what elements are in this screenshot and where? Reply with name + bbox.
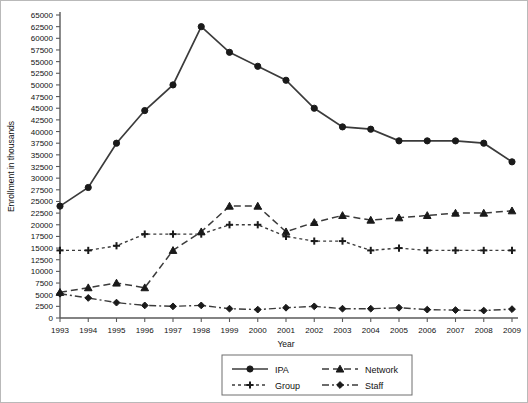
x-tick-label: 1999: [221, 326, 239, 335]
y-tick-label: 22500: [31, 209, 54, 218]
x-tick-label: 1993: [51, 326, 69, 335]
marker-diamond: [509, 306, 516, 313]
marker-circle: [396, 138, 402, 144]
y-tick-label: 7500: [35, 279, 53, 288]
x-tick-label: 2008: [475, 326, 493, 335]
marker-diamond: [339, 305, 346, 312]
y-tick-label: 30000: [31, 174, 54, 183]
y-tick-label: 60000: [31, 34, 54, 43]
marker-circle: [226, 49, 232, 55]
y-tick-label: 5000: [35, 291, 53, 300]
y-tick-label: 32500: [31, 163, 54, 172]
marker-diamond: [113, 299, 120, 306]
marker-diamond: [141, 302, 148, 309]
marker-circle: [424, 138, 430, 144]
x-tick-label: 2006: [418, 326, 436, 335]
marker-triangle: [169, 247, 177, 254]
y-tick-label: 47500: [31, 93, 54, 102]
marker-diamond: [254, 306, 261, 313]
marker-circle: [481, 140, 487, 146]
y-tick-label: 20000: [31, 221, 54, 230]
marker-diamond: [311, 303, 318, 310]
series-network: [56, 202, 516, 295]
marker-triangle: [84, 284, 92, 291]
y-tick-label: 12500: [31, 256, 54, 265]
y-tick-label: 55000: [31, 58, 54, 67]
marker-triangle: [226, 202, 234, 209]
y-tick-label: 15000: [31, 244, 54, 253]
y-tick-label: 57500: [31, 46, 54, 55]
marker-diamond: [198, 302, 205, 309]
series-ipa: [57, 24, 515, 210]
marker-triangle: [339, 212, 347, 219]
marker-circle: [311, 105, 317, 111]
x-tick-label: 2002: [305, 326, 323, 335]
x-tick-label: 2005: [390, 326, 408, 335]
y-tick-label: 45000: [31, 104, 54, 113]
marker-circle: [255, 63, 261, 69]
x-tick-label: 1996: [136, 326, 154, 335]
series-line-network: [60, 206, 512, 292]
marker-circle: [113, 140, 119, 146]
marker-circle: [368, 126, 374, 132]
legend-label: Group: [275, 381, 300, 391]
marker-circle: [198, 24, 204, 30]
series-staff: [57, 290, 516, 314]
marker-diamond: [424, 306, 431, 313]
marker-diamond: [396, 304, 403, 311]
y-tick-label: 37500: [31, 139, 54, 148]
legend-label: Staff: [365, 381, 384, 391]
x-axis-title: Year: [277, 339, 294, 349]
x-tick-label: 1997: [164, 326, 182, 335]
marker-triangle: [113, 279, 121, 286]
x-tick-label: 2004: [362, 326, 380, 335]
page-border: [1, 1, 528, 403]
series-line-ipa: [60, 27, 512, 206]
y-tick-label: 50000: [31, 81, 54, 90]
marker-diamond: [480, 307, 487, 314]
y-tick-label: 0: [49, 314, 54, 323]
marker-circle: [57, 203, 63, 209]
marker-triangle: [254, 202, 262, 209]
marker-circle: [142, 107, 148, 113]
marker-diamond: [170, 303, 177, 310]
marker-circle: [339, 124, 345, 130]
series-group: [56, 221, 515, 254]
chart-canvas: 0250050007500100001250015000175002000022…: [0, 0, 528, 403]
x-tick-label: 1994: [79, 326, 97, 335]
y-tick-label: 42500: [31, 116, 54, 125]
marker-diamond: [367, 305, 374, 312]
enrollment-line-chart: 0250050007500100001250015000175002000022…: [0, 0, 528, 403]
y-tick-label: 2500: [35, 302, 53, 311]
x-tick-label: 1995: [108, 326, 126, 335]
y-tick-label: 35000: [31, 151, 54, 160]
marker-circle: [509, 159, 515, 165]
x-tick-label: 2001: [277, 326, 295, 335]
marker-circle: [452, 138, 458, 144]
y-tick-label: 62500: [31, 23, 54, 32]
marker-diamond: [226, 305, 233, 312]
y-tick-label: 40000: [31, 128, 54, 137]
y-tick-label: 52500: [31, 69, 54, 78]
x-tick-label: 2003: [334, 326, 352, 335]
legend-box: [222, 355, 412, 395]
x-tick-label: 2007: [447, 326, 465, 335]
y-tick-label: 27500: [31, 186, 54, 195]
marker-circle: [170, 82, 176, 88]
y-tick-label: 10000: [31, 267, 54, 276]
marker-diamond: [452, 307, 459, 314]
x-tick-label: 2009: [503, 326, 521, 335]
marker-circle: [283, 77, 289, 83]
x-tick-label: 2000: [249, 326, 267, 335]
marker-circle: [85, 184, 91, 190]
legend-label: Network: [365, 365, 399, 375]
y-tick-label: 65000: [31, 11, 54, 20]
y-tick-label: 17500: [31, 232, 54, 241]
marker-diamond: [283, 304, 290, 311]
x-tick-label: 1998: [192, 326, 210, 335]
legend-label: IPA: [275, 365, 289, 375]
y-tick-label: 25000: [31, 197, 54, 206]
marker-diamond: [85, 295, 92, 302]
y-axis-title: Enrollment in thousands: [6, 121, 16, 212]
legend: IPANetworkGroupStaff: [222, 355, 412, 395]
